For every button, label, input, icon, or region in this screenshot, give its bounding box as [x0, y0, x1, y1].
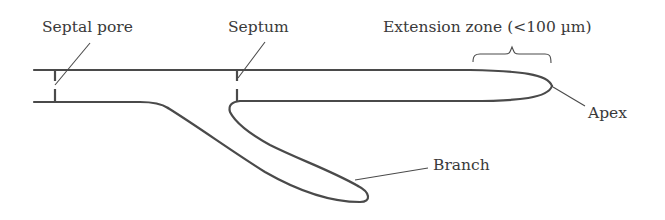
hypha-diagram: Septal pore Septum Extension zone (<100 …	[0, 0, 665, 220]
apex-label: Apex	[587, 104, 627, 122]
septum-leader	[238, 42, 265, 78]
extension-zone-label: Extension zone (<100 µm)	[383, 18, 592, 36]
hypha-top-wall	[34, 70, 552, 86]
branch-leader	[355, 168, 428, 180]
hypha-bottom-wall-left	[34, 102, 168, 108]
septal-pore-leader	[55, 43, 90, 85]
extension-zone-bracket	[473, 47, 551, 63]
septum-label: Septum	[228, 18, 289, 36]
apex-leader	[553, 87, 585, 106]
septal-pore-label: Septal pore	[42, 18, 133, 36]
branch-outer-wall	[168, 108, 368, 202]
branch-label: Branch	[433, 156, 490, 174]
hypha-apex-wall	[240, 86, 552, 101]
branch-inner-wall	[229, 101, 358, 186]
